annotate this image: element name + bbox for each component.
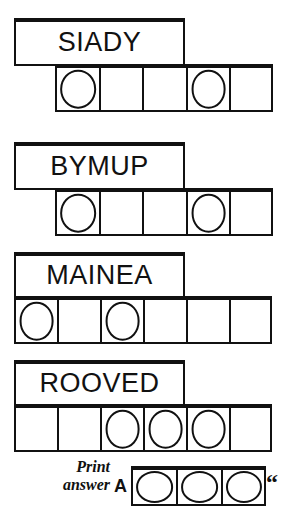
- puzzle-row: ROOVED: [0, 360, 287, 454]
- scrambled-word-plate: BYMUP: [14, 142, 185, 190]
- scrambled-word-text: MAINEA: [46, 262, 153, 289]
- letter-cell[interactable]: [55, 188, 99, 236]
- letter-cell-grid: [14, 296, 272, 344]
- letter-cell[interactable]: [186, 188, 229, 236]
- letter-cell[interactable]: [99, 64, 142, 112]
- letter-cell[interactable]: [229, 404, 272, 452]
- open-quote-mark: “: [266, 470, 278, 494]
- scrambled-word-text: ROOVED: [39, 370, 159, 397]
- answer-prefix-letter: A: [114, 477, 127, 495]
- letter-cell-grid: [14, 404, 272, 452]
- answer-cell[interactable]: [221, 466, 266, 506]
- scrambled-word-plate: SIADY: [14, 18, 185, 66]
- scrambled-word-plate: MAINEA: [14, 252, 185, 298]
- scrambled-word-text: BYMUP: [50, 153, 149, 180]
- letter-cell[interactable]: [143, 404, 186, 452]
- letter-cell[interactable]: [143, 296, 186, 344]
- letter-cell[interactable]: [100, 404, 143, 452]
- puzzle-row: BYMUP: [0, 142, 287, 238]
- print-answer-label-line1: Print: [76, 458, 110, 475]
- answer-cell[interactable]: [131, 466, 176, 506]
- letter-cell[interactable]: [100, 296, 143, 344]
- letter-cell[interactable]: [229, 296, 272, 344]
- letter-cell[interactable]: [142, 64, 186, 112]
- scrambled-word-text: SIADY: [58, 29, 142, 56]
- letter-cell[interactable]: [142, 188, 186, 236]
- print-answer-label: Print answer: [44, 458, 110, 494]
- answer-cell-grid: [131, 466, 266, 506]
- letter-cell[interactable]: [57, 404, 100, 452]
- letter-cell-grid: [55, 188, 273, 236]
- puzzle-row: MAINEA: [0, 252, 287, 346]
- letter-cell[interactable]: [186, 404, 229, 452]
- puzzle-row: SIADY: [0, 18, 287, 114]
- letter-cell[interactable]: [14, 404, 57, 452]
- letter-cell[interactable]: [186, 64, 229, 112]
- letter-cell[interactable]: [55, 64, 99, 112]
- letter-cell[interactable]: [229, 188, 273, 236]
- letter-cell[interactable]: [99, 188, 142, 236]
- answer-strip: Print answer A “: [0, 456, 287, 499]
- letter-cell-grid: [55, 64, 273, 112]
- scrambled-word-plate: ROOVED: [14, 360, 185, 406]
- letter-cell[interactable]: [57, 296, 100, 344]
- answer-cell[interactable]: [176, 466, 221, 506]
- print-answer-label-line2: answer: [63, 476, 110, 493]
- letter-cell[interactable]: [229, 64, 273, 112]
- letter-cell[interactable]: [14, 296, 57, 344]
- letter-cell[interactable]: [186, 296, 229, 344]
